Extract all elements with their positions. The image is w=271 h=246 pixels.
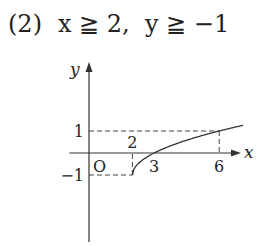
y-axis-arrow-icon — [86, 62, 93, 72]
x-tick-label: 3 — [149, 157, 159, 176]
x-tick-label: 2 — [127, 133, 137, 152]
x-axis-label: x — [244, 142, 254, 162]
x-axis-arrow-icon — [231, 150, 241, 157]
graph: x y O 2361−1 — [0, 0, 271, 246]
x-tick-label: 6 — [214, 157, 224, 176]
y-axis-label: y — [69, 59, 80, 79]
origin-label: O — [93, 157, 106, 176]
y-tick-label: −1 — [60, 166, 84, 185]
y-tick-label: 1 — [74, 122, 84, 141]
